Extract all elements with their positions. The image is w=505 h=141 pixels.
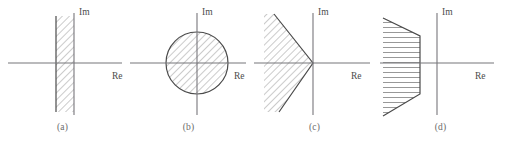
panel-c: Im Re (c) (252, 0, 377, 141)
panel-caption-b: (b) (126, 122, 251, 132)
re-axis-label: Re (112, 71, 123, 81)
panel-caption-c: (c) (252, 122, 377, 132)
re-axis-label: Re (475, 71, 486, 81)
im-axis-label: Im (318, 7, 329, 17)
panel-a: Im Re (a) (0, 0, 125, 141)
re-axis-label: Re (234, 71, 245, 81)
region-a-strip (56, 16, 74, 112)
panel-b: Im Re (b) (126, 0, 251, 141)
complex-plane-regions-figure: Im Re (a) Im Re (b) (0, 0, 505, 141)
im-axis-label: Im (79, 7, 90, 17)
panel-caption-d: (d) (378, 122, 503, 132)
im-axis-label: Im (442, 7, 453, 17)
region-d-truncated-wedge (383, 18, 420, 116)
re-axis-label: Re (351, 71, 362, 81)
im-axis-label: Im (202, 7, 213, 17)
panel-caption-a: (a) (0, 122, 125, 132)
panel-d: Im Re (d) (378, 0, 503, 141)
